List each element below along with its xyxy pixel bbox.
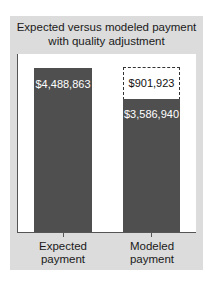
category-label-line: payment <box>112 253 192 266</box>
bar-value-label: $4,488,863 <box>34 78 92 90</box>
category-label-expected: Expected payment <box>23 240 103 266</box>
category-label-line: Modeled <box>112 240 192 253</box>
chart-title: Expected versus modeled payment with qua… <box>10 20 203 48</box>
x-axis-tick <box>63 233 64 237</box>
gap-value-label: $901,923 <box>124 77 179 89</box>
bar-expected-payment: $4,488,863 <box>34 68 92 232</box>
chart-title-line1: Expected versus modeled payment <box>10 20 203 34</box>
quality-adjustment-gap: $901,923 <box>123 67 180 100</box>
x-axis-baseline <box>17 232 196 233</box>
chart-title-line2: with quality adjustment <box>10 34 203 48</box>
bar-modeled-payment: $3,586,940 <box>123 99 180 232</box>
bar-value-label: $3,586,940 <box>123 108 180 120</box>
x-axis-tick <box>151 233 152 237</box>
category-label-modeled: Modeled payment <box>112 240 192 266</box>
category-label-line: payment <box>23 253 103 266</box>
y-axis <box>17 54 18 233</box>
category-label-line: Expected <box>23 240 103 253</box>
